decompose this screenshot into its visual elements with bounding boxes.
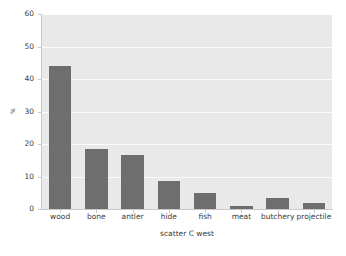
y-tick-label: 20 xyxy=(10,140,34,148)
y-tick-label: 10 xyxy=(10,173,34,181)
x-tick-label: projectile xyxy=(292,212,336,221)
x-tick-mark xyxy=(205,210,206,213)
y-tick-mark xyxy=(38,79,41,80)
y-tick-label: 40 xyxy=(10,75,34,83)
y-tick-label: 60 xyxy=(10,10,34,18)
x-tick-mark xyxy=(241,210,242,213)
y-tick-mark xyxy=(38,144,41,145)
y-tick-mark xyxy=(38,209,41,210)
y-tick-label: 0 xyxy=(10,205,34,213)
bar[interactable] xyxy=(121,155,143,209)
y-tick-mark xyxy=(38,112,41,113)
y-tick-mark xyxy=(38,47,41,48)
bar[interactable] xyxy=(49,66,71,209)
y-axis-spine xyxy=(41,14,42,210)
y-tick-mark xyxy=(38,14,41,15)
x-tick-mark xyxy=(60,210,61,213)
bar[interactable] xyxy=(158,181,180,209)
x-tick-mark xyxy=(169,210,170,213)
x-tick-mark xyxy=(314,210,315,213)
y-tick-label: 30 xyxy=(10,108,34,116)
bar[interactable] xyxy=(194,193,216,209)
bar[interactable] xyxy=(85,149,107,209)
plot-area xyxy=(42,14,332,209)
bar[interactable] xyxy=(266,198,288,209)
bar-series xyxy=(42,14,332,209)
x-tick-mark xyxy=(133,210,134,213)
x-tick-mark xyxy=(278,210,279,213)
x-axis-spine xyxy=(41,209,333,210)
x-axis-title: scatter C west xyxy=(42,229,332,239)
bar-chart-figure: % 0102030405060 woodboneantlerhidefishme… xyxy=(0,0,346,256)
x-tick-mark xyxy=(96,210,97,213)
y-tick-label: 50 xyxy=(10,43,34,51)
y-tick-mark xyxy=(38,177,41,178)
